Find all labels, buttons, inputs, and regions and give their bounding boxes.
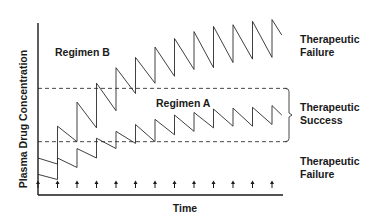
annotation-line: Therapeutic <box>300 101 360 113</box>
dose-arrow-icon <box>173 181 177 189</box>
annotation-failure-high: Therapeutic Failure <box>300 33 360 58</box>
arrow-head <box>153 181 157 185</box>
arrow-head <box>95 181 99 185</box>
arrow-head <box>56 181 60 185</box>
dose-arrow-icon <box>114 181 118 189</box>
annotation-line: Therapeutic <box>300 155 360 167</box>
arrow-head <box>134 181 138 185</box>
arrow-head <box>251 181 255 185</box>
success-bracket <box>285 88 292 141</box>
dose-arrow-icon <box>75 181 79 189</box>
arrow-head <box>75 181 79 185</box>
arrow-head <box>231 181 235 185</box>
bracket-shape <box>285 88 292 141</box>
series-label-regimen-a: Regimen A <box>156 97 211 109</box>
series-regimen-b <box>38 20 282 165</box>
series-label-regimen-b: Regimen B <box>55 46 110 58</box>
dose-arrow-icon <box>251 181 255 189</box>
dose-arrow-icon <box>231 181 235 189</box>
dose-arrow-icon <box>134 181 138 189</box>
annotation-line: Failure <box>300 168 335 180</box>
dose-arrow-icon <box>153 181 157 189</box>
annotation-success: Therapeutic Success <box>300 101 360 126</box>
y-axis-label: Plasma Drug Concentration <box>17 50 29 188</box>
pharmacokinetic-chart: Plasma Drug Concentration Time Regimen B… <box>0 0 377 220</box>
arrow-head <box>114 181 118 185</box>
annotation-line: Failure <box>300 46 335 58</box>
series-regimen-a <box>38 106 282 180</box>
dose-arrow-icon <box>95 181 99 189</box>
arrow-head <box>173 181 177 185</box>
arrow-head <box>192 181 196 185</box>
annotation-failure-low: Therapeutic Failure <box>300 155 360 180</box>
annotation-line: Success <box>300 114 343 126</box>
dose-arrow-icon <box>192 181 196 189</box>
annotation-line: Therapeutic <box>300 33 360 45</box>
dose-arrow-icon <box>212 181 216 189</box>
series-line <box>38 20 282 164</box>
dose-markers <box>36 181 274 189</box>
dose-arrow-icon <box>56 181 60 189</box>
x-axis-label: Time <box>173 202 197 214</box>
arrow-head <box>212 181 216 185</box>
dose-arrow-icon <box>270 181 274 189</box>
arrow-head <box>270 181 274 185</box>
series-line <box>38 106 282 180</box>
